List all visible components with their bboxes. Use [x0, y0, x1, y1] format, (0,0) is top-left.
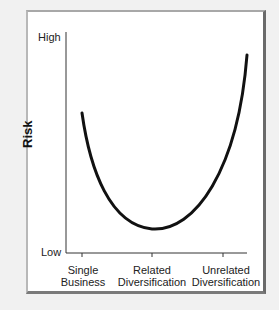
x-label-line: Single	[57, 264, 109, 276]
x-label-line: Diversification	[190, 276, 262, 288]
x-label-line: Unrelated	[190, 264, 262, 276]
x-label-related-diversification: Related Diversification	[116, 264, 188, 288]
x-label-line: Business	[57, 276, 109, 288]
x-label-line: Diversification	[116, 276, 188, 288]
y-high-label: High	[38, 31, 61, 43]
x-label-unrelated-diversification: Unrelated Diversification	[190, 264, 262, 288]
x-label-single-business: Single Business	[57, 264, 109, 288]
y-axis-label: Risk	[20, 121, 35, 148]
risk-curve	[82, 55, 247, 229]
y-low-label: Low	[41, 246, 61, 258]
x-label-line: Related	[116, 264, 188, 276]
